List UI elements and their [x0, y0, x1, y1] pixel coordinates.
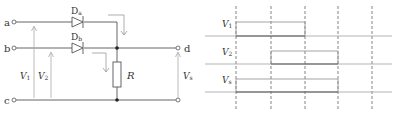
current-arrow-a-icon — [108, 15, 127, 35]
diode-b-icon — [72, 42, 83, 54]
v2-label: V2 — [38, 71, 49, 81]
waveform-vs — [236, 79, 338, 92]
terminal-a-label: a — [4, 17, 10, 28]
terminal-b — [12, 46, 16, 50]
junction-dot-top — [115, 46, 119, 50]
terminal-c — [12, 98, 16, 102]
wires — [16, 22, 176, 100]
resistor-icon — [113, 62, 121, 87]
waveform-v2 — [271, 51, 338, 64]
terminal-d-label: d — [184, 43, 191, 54]
diode-a-icon — [72, 16, 83, 28]
diode-b-label: Db — [71, 32, 82, 42]
voltage-arrow-vs-icon — [176, 52, 181, 98]
waveform-v1-label: V1 — [222, 19, 232, 29]
waveform-v2-label: V2 — [222, 47, 233, 57]
terminal-ground-out — [176, 98, 180, 102]
resistor-label: R — [126, 70, 135, 81]
timing-diagram: V1 V2 Vs — [205, 6, 392, 111]
circuit: a b c d Da Db — [4, 6, 193, 106]
terminal-a — [12, 20, 16, 24]
diode-or-gate-diagram: a b c d Da Db — [0, 0, 396, 117]
waveform-vs-label: Vs — [222, 75, 232, 85]
terminal-b-label: b — [4, 43, 10, 54]
voltage-arrow-v2-icon — [49, 52, 54, 98]
terminal-c-label: c — [4, 95, 10, 106]
current-arrow-b-icon — [92, 53, 109, 72]
waveform-v1 — [236, 22, 305, 36]
vs-label: Vs — [183, 71, 193, 81]
voltage-arrow-v1-icon — [32, 26, 37, 98]
junction-dot-bottom — [115, 98, 119, 102]
v1-label: V1 — [20, 71, 30, 81]
diode-a-label: Da — [71, 6, 82, 16]
terminal-d — [176, 46, 180, 50]
